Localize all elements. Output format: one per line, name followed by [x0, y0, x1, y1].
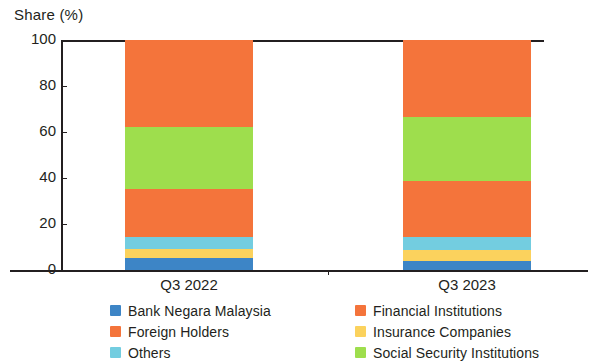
legend-swatch-icon — [110, 347, 121, 358]
bar-segment — [125, 237, 253, 249]
bar-segment — [125, 40, 253, 127]
bar-segment — [125, 127, 253, 188]
x-tick-label: Q3 2022 — [129, 276, 249, 293]
legend-swatch-icon — [110, 305, 121, 316]
x-tick-label: Q3 2023 — [407, 276, 527, 293]
legend-label: Insurance Companies — [373, 324, 511, 340]
legend-swatch-icon — [355, 347, 366, 358]
legend-item[interactable]: Foreign Holders — [110, 324, 355, 340]
bar-q3-2023 — [403, 40, 531, 270]
x-axis-line — [10, 270, 588, 272]
stacked-bar-chart: Share (%) 020406080100 Q3 2022Q3 2023 Ba… — [0, 0, 596, 361]
y-tick-mark — [61, 132, 67, 133]
legend-label: Others — [128, 345, 171, 361]
bar-segment — [403, 40, 531, 117]
bar-segment — [403, 250, 531, 261]
legend-swatch-icon — [355, 305, 366, 316]
bar-segment — [403, 261, 531, 270]
bar-segment — [125, 189, 253, 237]
bars-container — [0, 0, 596, 270]
bar-q3-2022 — [125, 40, 253, 270]
legend-item[interactable]: Financial Institutions — [355, 303, 580, 319]
legend-label: Foreign Holders — [128, 324, 229, 340]
legend-swatch-icon — [110, 326, 121, 337]
bar-segment — [125, 258, 253, 270]
bar-segment — [125, 249, 253, 258]
y-tick-mark — [61, 86, 67, 87]
legend-item[interactable]: Insurance Companies — [355, 324, 580, 340]
x-tick-mark — [328, 270, 329, 275]
legend-item[interactable]: Others — [110, 345, 355, 361]
bar-segment — [403, 181, 531, 237]
y-tick-mark — [61, 178, 67, 179]
chart-legend: Bank Negara MalaysiaFinancial Institutio… — [110, 300, 580, 361]
bar-segment — [403, 117, 531, 181]
legend-item[interactable]: Social Security Institutions — [355, 345, 580, 361]
y-tick-mark — [61, 224, 67, 225]
legend-label: Bank Negara Malaysia — [128, 303, 271, 319]
bar-segment — [403, 237, 531, 250]
legend-label: Financial Institutions — [373, 303, 502, 319]
legend-item[interactable]: Bank Negara Malaysia — [110, 303, 355, 319]
legend-label: Social Security Institutions — [373, 345, 539, 361]
legend-swatch-icon — [355, 326, 366, 337]
